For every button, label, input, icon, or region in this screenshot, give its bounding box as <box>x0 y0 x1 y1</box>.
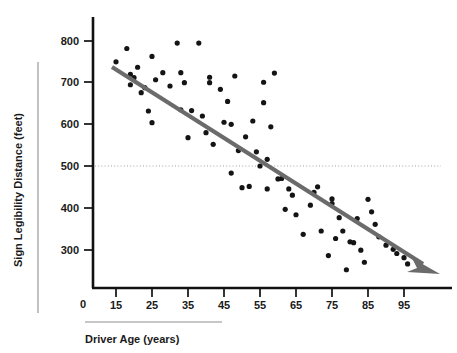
x-tick-label-75: 75 <box>326 299 338 311</box>
data-point <box>229 170 234 175</box>
x-axis-title-group: Driver Age (years) <box>85 322 222 345</box>
data-point <box>254 149 259 154</box>
data-point <box>189 108 194 113</box>
y-tick-label-400: 400 <box>61 202 79 214</box>
data-point <box>149 120 154 125</box>
x-tick-label-65: 65 <box>290 299 302 311</box>
data-point <box>362 260 367 265</box>
data-point <box>319 228 324 233</box>
scatter-plot-figure: Sign Legibility Distance (feet) 800 700 … <box>0 0 457 353</box>
x-axis-title: Driver Age (years) <box>85 333 180 345</box>
data-point <box>167 83 172 88</box>
y-axis-title-group: Sign Legibility Distance (feet) <box>12 62 38 313</box>
data-point <box>182 80 187 85</box>
data-point <box>358 248 363 253</box>
data-point <box>175 40 180 45</box>
data-point <box>178 70 183 75</box>
y-tick-label-600: 600 <box>61 118 79 130</box>
data-point <box>232 73 237 78</box>
data-point <box>149 54 154 59</box>
data-point <box>373 222 378 227</box>
data-point <box>261 100 266 105</box>
data-point <box>344 267 349 272</box>
data-point <box>290 193 295 198</box>
data-point <box>207 75 212 80</box>
data-point <box>139 90 144 95</box>
y-tick-label-500: 500 <box>61 160 79 172</box>
data-point <box>229 122 234 127</box>
data-point <box>239 185 244 190</box>
data-point <box>293 212 298 217</box>
data-point <box>337 215 342 220</box>
data-point <box>211 142 216 147</box>
data-point <box>153 77 158 82</box>
data-point <box>308 203 313 208</box>
data-point <box>160 70 165 75</box>
data-point <box>247 184 252 189</box>
data-point <box>405 261 410 266</box>
data-point <box>394 251 399 256</box>
data-point <box>268 124 273 129</box>
data-point <box>283 207 288 212</box>
data-point <box>401 255 406 260</box>
data-point <box>128 82 133 87</box>
x-tick-label-25: 25 <box>146 299 158 311</box>
data-point <box>329 196 334 201</box>
data-point <box>265 157 270 162</box>
data-point <box>326 253 331 258</box>
data-point <box>135 65 140 70</box>
data-point <box>272 70 277 75</box>
data-point <box>185 135 190 140</box>
data-point <box>369 209 374 214</box>
y-tick-label-800: 800 <box>61 35 79 47</box>
y-tick-label-300: 300 <box>61 244 79 256</box>
trend-line <box>112 67 423 264</box>
data-point <box>203 130 208 135</box>
trend-arrow-head <box>407 258 440 274</box>
data-point <box>113 59 118 64</box>
data-point <box>365 197 370 202</box>
origin-label: 0 <box>80 298 86 310</box>
data-point <box>351 240 356 245</box>
x-tick-label-15: 15 <box>110 299 122 311</box>
x-tick-label-45: 45 <box>218 299 230 311</box>
x-tick-label-95: 95 <box>398 299 410 311</box>
data-point <box>146 108 151 113</box>
data-point <box>221 120 226 125</box>
data-point <box>301 232 306 237</box>
data-point <box>340 228 345 233</box>
chart-svg: Sign Legibility Distance (feet) 800 700 … <box>0 0 457 353</box>
data-point <box>200 113 205 118</box>
data-point <box>124 46 129 51</box>
data-point <box>265 186 270 191</box>
data-point <box>315 184 320 189</box>
x-tick-label-35: 35 <box>182 299 194 311</box>
y-axis-title: Sign Legibility Distance (feet) <box>12 113 24 267</box>
y-axis-ticks: 800 700 600 500 400 300 0 <box>61 35 93 310</box>
data-point <box>207 80 212 85</box>
data-points-group <box>113 40 410 272</box>
data-point <box>261 80 266 85</box>
data-point <box>196 40 201 45</box>
x-tick-label-55: 55 <box>254 299 266 311</box>
data-point <box>333 236 338 241</box>
y-tick-label-700: 700 <box>61 76 79 88</box>
data-point <box>250 118 255 123</box>
data-point <box>218 87 223 92</box>
data-point <box>225 99 230 104</box>
x-axis-ticks: 152535455565758595 <box>110 288 410 311</box>
x-tick-label-85: 85 <box>362 299 374 311</box>
trend-line-group <box>112 67 440 274</box>
data-point <box>286 186 291 191</box>
data-point <box>243 134 248 139</box>
